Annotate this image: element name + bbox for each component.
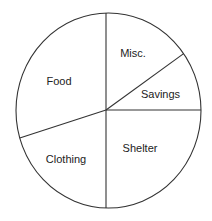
label-clothing: Clothing [46, 154, 86, 165]
label-savings: Savings [141, 89, 180, 100]
label-misc: Misc. [120, 48, 146, 59]
label-shelter: Shelter [123, 142, 158, 153]
slice-divider [106, 54, 184, 110]
label-food: Food [46, 76, 71, 87]
slice-divider [20, 110, 106, 138]
slice-dividers [20, 13, 201, 208]
pie-chart [0, 0, 212, 221]
